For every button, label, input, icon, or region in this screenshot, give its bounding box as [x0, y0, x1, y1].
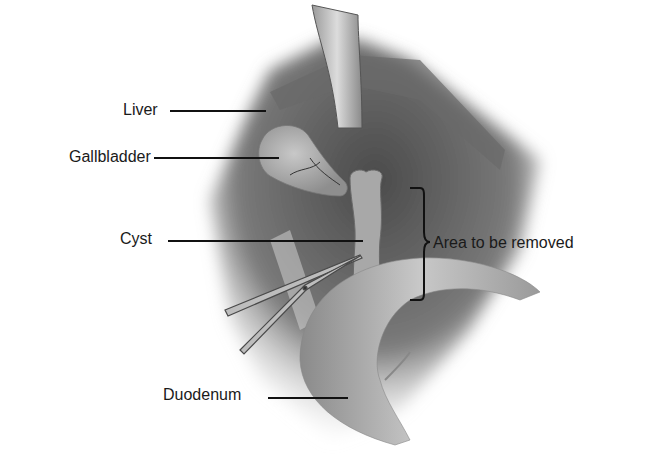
label-cyst: Cyst [120, 230, 152, 248]
label-duodenum: Duodenum [163, 386, 241, 404]
label-gallbladder: Gallbladder [69, 148, 151, 166]
leader-line-liver [170, 110, 266, 112]
leader-line-duodenum [268, 397, 348, 399]
label-area-to-be-removed: Area to be removed [433, 234, 574, 252]
leader-line-gallbladder [154, 157, 279, 159]
leader-line-cyst [168, 240, 363, 242]
label-liver: Liver [123, 101, 158, 119]
